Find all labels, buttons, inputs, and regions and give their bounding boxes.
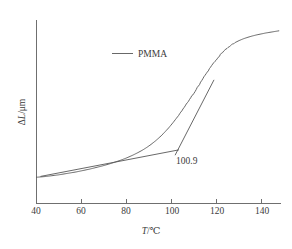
x-axis-title: T/℃	[142, 226, 161, 236]
transition-tangent-line	[175, 80, 214, 155]
x-tick-label-0: 40	[31, 206, 41, 216]
y-axis-title-unit: /μm	[17, 98, 27, 114]
tma-chart-figure: 40 60 80 100 120 140 T/℃ ΔL/μm 100.9 PMM…	[0, 0, 292, 249]
legend-label-pmma: PMMA	[138, 49, 167, 59]
chart-legend: PMMA	[112, 49, 167, 59]
baseline-tangent-line	[41, 150, 179, 176]
chart-canvas: 40 60 80 100 120 140 T/℃ ΔL/μm 100.9 PMM…	[0, 0, 292, 249]
x-tick-label-3: 100	[165, 206, 180, 216]
x-tick-label-1: 60	[76, 206, 86, 216]
y-axis-title: ΔL/μm	[17, 98, 27, 125]
x-tick-label-2: 80	[121, 206, 131, 216]
x-axis-ticks	[37, 199, 262, 204]
x-axis-tick-labels: 40 60 80 100 120 140	[31, 206, 269, 216]
x-tick-label-5: 140	[255, 206, 270, 216]
x-tick-label-4: 120	[210, 206, 225, 216]
x-axis-title-unit: /℃	[147, 226, 161, 236]
onset-temperature-annotation: 100.9	[176, 156, 198, 166]
